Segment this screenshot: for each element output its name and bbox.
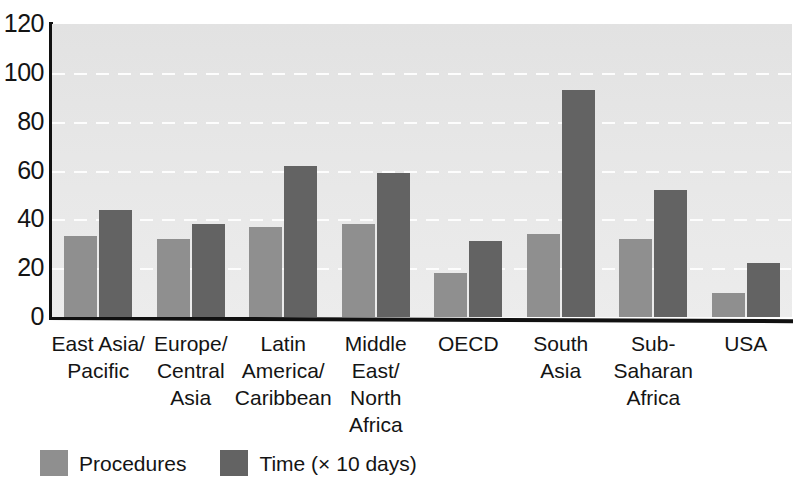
x-axis-label-line: Africa — [322, 411, 431, 438]
bar-east-asia-pacific-time — [99, 210, 132, 317]
bar-latin-america-caribbean-time — [284, 166, 317, 317]
bar-middle-east-north-africa-procedures — [342, 224, 375, 317]
y-axis-tick-120: 120 — [0, 11, 44, 36]
gridline-100 — [52, 73, 792, 75]
bar-latin-america-caribbean-procedures — [249, 227, 282, 317]
x-axis-label-usa: USA — [692, 330, 800, 357]
y-axis-tick-40: 40 — [0, 206, 44, 231]
x-axis-label-line: Africa — [599, 384, 708, 411]
x-axis-label-line: Saharan — [599, 357, 708, 384]
x-axis-label-line: East/ — [322, 357, 431, 384]
legend-swatch-time-icon — [220, 450, 248, 476]
x-axis-label-line: North — [322, 384, 431, 411]
bar-sub-saharan-africa-procedures — [619, 239, 652, 317]
x-axis-line — [49, 316, 793, 323]
y-axis-tick-60: 60 — [0, 158, 44, 183]
legend-label: Time (× 10 days) — [259, 453, 416, 474]
bar-east-asia-pacific-procedures — [64, 236, 97, 317]
y-axis-tick-0: 0 — [0, 304, 44, 329]
gridline-80 — [52, 122, 792, 124]
bar-south-asia-time — [562, 90, 595, 317]
y-axis-tick-80: 80 — [0, 109, 44, 134]
bar-middle-east-north-africa-time — [377, 173, 410, 317]
chart-legend: ProceduresTime (× 10 days) — [40, 446, 441, 480]
bar-usa-procedures — [712, 293, 745, 317]
bar-south-asia-procedures — [527, 234, 560, 317]
bar-europe-central-asia-procedures — [157, 239, 190, 317]
bar-chart-figure: 120100806040200 East Asia/PacificEurope/… — [0, 0, 800, 496]
legend-label: Procedures — [79, 453, 186, 474]
legend-swatch-procedures-icon — [40, 450, 68, 476]
bar-usa-time — [747, 263, 780, 317]
x-axis-label-line: USA — [692, 330, 800, 357]
y-axis-tick-100: 100 — [0, 60, 44, 85]
gridline-60 — [52, 171, 792, 173]
legend-item-time[interactable]: Time (× 10 days) — [220, 450, 416, 476]
legend-item-procedures[interactable]: Procedures — [40, 450, 186, 476]
bar-europe-central-asia-time — [192, 224, 225, 317]
y-axis-tick-20: 20 — [0, 255, 44, 280]
bar-oecd-procedures — [434, 273, 467, 317]
bar-sub-saharan-africa-time — [654, 190, 687, 317]
x-axis-category-labels: East Asia/PacificEurope/CentralAsiaLatin… — [52, 330, 792, 435]
y-axis-tick-labels: 120100806040200 — [0, 0, 44, 340]
bar-oecd-time — [469, 241, 502, 317]
plot-area — [52, 24, 792, 317]
